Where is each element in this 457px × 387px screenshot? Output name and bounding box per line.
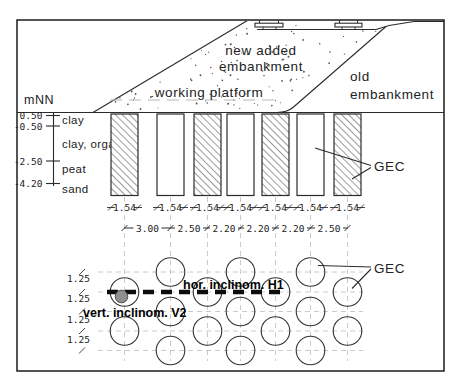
scanned-drawing-page: mNN 0.50 -0.50 -2.50 -4.20 clay clay, or… xyxy=(0,0,457,387)
spacing-dimension-label: 2.20 xyxy=(282,223,305,234)
working-platform-label: working platform xyxy=(154,85,264,100)
gec-column-hatched xyxy=(262,114,289,196)
horizontal-inclinometer-label: hor. inclinom. H1 xyxy=(183,278,284,292)
gec-column-hatched xyxy=(111,114,138,196)
gec-label: GEC xyxy=(374,261,405,276)
new-embankment-label-line1: new added xyxy=(225,43,296,58)
row-spacing-label: 1.25 xyxy=(67,293,90,304)
width-dimension-label: 1.54 xyxy=(299,202,322,213)
vertical-inclinometer-label: vert. inclinom. V2 xyxy=(83,306,187,320)
width-dimension-label: 1.54 xyxy=(159,202,182,213)
geotechnical-cross-section-diagram: mNN 0.50 -0.50 -2.50 -4.20 clay clay, or… xyxy=(0,0,457,387)
new-embankment-label-line2: embankment xyxy=(219,59,303,74)
spacing-dimension-label: 2.50 xyxy=(318,223,341,234)
spacing-dimension-label: 2.20 xyxy=(213,223,236,234)
elevation-label: -2.50 xyxy=(14,156,43,167)
row-spacing-label: 1.25 xyxy=(67,273,90,284)
width-dimension-label: 1.54 xyxy=(229,202,252,213)
soil-layer-label: sand xyxy=(62,183,89,195)
width-dimension-label: 1.54 xyxy=(113,202,136,213)
elevation-label: 0.50 xyxy=(20,110,43,121)
row-spacing-label: 1.25 xyxy=(67,334,90,345)
gec-column xyxy=(227,114,254,196)
old-embankment-label-line2: embankment xyxy=(350,87,434,102)
spacing-dimension-label: 2.20 xyxy=(247,223,270,234)
width-dimension-label: 1.54 xyxy=(336,202,359,213)
axis-unit-label: mNN xyxy=(24,93,54,107)
column-spacing-dimension: 3.00 2.50 2.20 2.20 2.20 2.50 xyxy=(122,223,351,234)
gec-column xyxy=(157,114,184,196)
elevation-label: -4.20 xyxy=(14,178,43,189)
width-dimension-label: 1.54 xyxy=(264,202,287,213)
old-embankment-label-line1: old xyxy=(350,69,370,84)
spacing-dimension-label: 2.50 xyxy=(178,223,201,234)
vertical-inclinometer-dot xyxy=(115,290,128,303)
elevation-label: -0.50 xyxy=(14,121,43,132)
soil-layer-label: peat xyxy=(62,163,86,175)
gec-column-hatched xyxy=(194,114,221,196)
spacing-dimension-label: 3.00 xyxy=(136,223,159,234)
gec-column xyxy=(297,114,324,196)
gec-label: GEC xyxy=(374,159,405,174)
soil-layer-label: clay xyxy=(62,114,84,126)
width-dimension-label: 1.54 xyxy=(196,202,219,213)
